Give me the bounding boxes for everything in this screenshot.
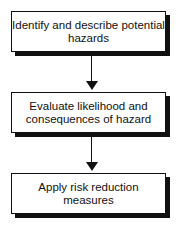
arrow-down-icon	[86, 81, 98, 90]
connector-line	[91, 56, 92, 81]
step-identify-hazards: Identify and describe potential hazards	[11, 11, 166, 52]
step-evaluate-hazard: Evaluate likelihood and consequences of …	[11, 92, 166, 133]
step-label: Evaluate likelihood and consequences of …	[12, 100, 165, 126]
step-apply-measures: Apply risk reduction measures	[11, 173, 166, 214]
step-label: Apply risk reduction measures	[12, 181, 165, 207]
step-label: Identify and describe potential hazards	[12, 19, 165, 45]
arrow-down-icon	[86, 162, 98, 171]
connector-line	[91, 137, 92, 162]
